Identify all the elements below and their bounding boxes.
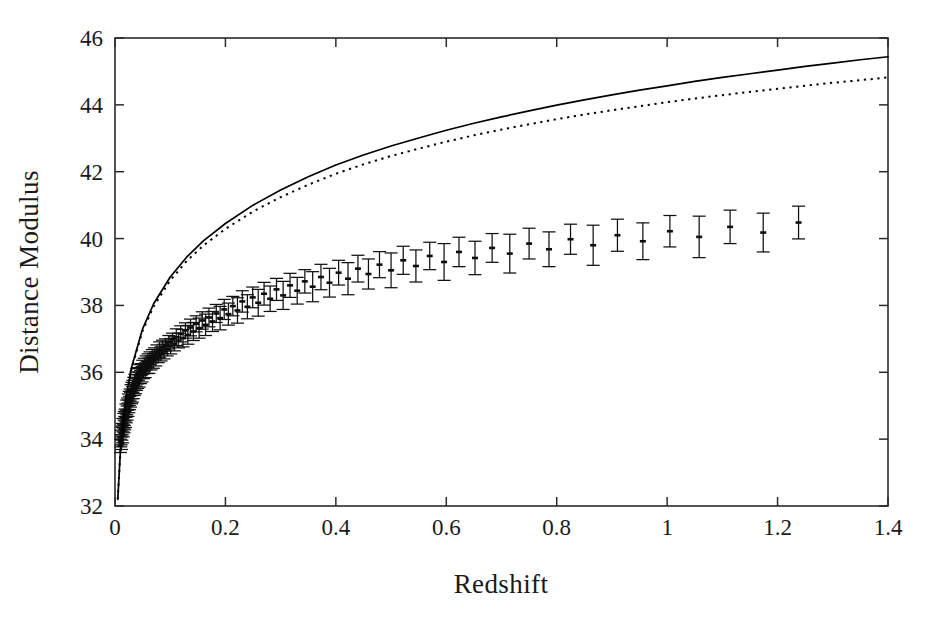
y-tick-label: 44 <box>80 93 104 118</box>
data-point <box>152 353 158 356</box>
data-point <box>182 329 188 332</box>
data-point <box>176 339 182 342</box>
x-axis-ticks-bottom <box>115 497 888 506</box>
x-tick-label: 1.2 <box>763 515 792 540</box>
data-point <box>221 308 227 311</box>
data-point <box>489 247 495 250</box>
x-tick-label: 1.4 <box>874 515 903 540</box>
data-point <box>217 317 223 320</box>
data-point <box>376 263 382 266</box>
x-axis-tick-labels: 00.20.40.60.811.21.4 <box>109 515 903 540</box>
data-point <box>318 276 324 279</box>
x-tick-label: 1 <box>661 515 673 540</box>
data-point <box>327 281 333 284</box>
data-point <box>125 408 131 411</box>
data-point <box>696 236 702 239</box>
data-point <box>127 402 133 405</box>
x-axis-title: Redshift <box>454 569 549 599</box>
data-point <box>302 280 308 283</box>
data-point <box>166 341 172 344</box>
data-point <box>261 292 267 295</box>
data-point <box>230 305 236 308</box>
data-point <box>244 305 250 308</box>
y-tick-label: 36 <box>80 360 103 385</box>
data-point <box>126 405 132 408</box>
data-point <box>169 338 175 341</box>
data-point <box>640 240 646 243</box>
supernova-errorbars <box>114 206 805 452</box>
data-point <box>472 257 478 260</box>
data-point <box>294 289 300 292</box>
y-tick-label: 40 <box>80 227 103 252</box>
data-point <box>145 359 151 362</box>
data-point <box>193 323 199 326</box>
data-point <box>142 369 148 372</box>
data-point <box>134 383 140 386</box>
data-point <box>427 255 433 258</box>
data-point <box>213 312 219 315</box>
data-point <box>355 267 361 270</box>
data-point <box>280 294 286 297</box>
data-point <box>185 334 191 337</box>
data-point <box>796 221 802 224</box>
data-point <box>137 376 143 379</box>
data-point <box>178 333 184 336</box>
data-point <box>149 355 155 358</box>
y-axis-title: Distance Modulus <box>14 170 44 374</box>
x-tick-label: 0.2 <box>211 515 240 540</box>
data-point <box>136 378 142 381</box>
hubble-diagram-figure: 00.20.40.60.811.21.4 3234363840424446 Re… <box>0 0 937 635</box>
data-point <box>203 324 209 327</box>
x-tick-label: 0.8 <box>542 515 571 540</box>
data-point <box>188 326 194 329</box>
data-point <box>336 271 342 274</box>
data-point <box>441 261 447 264</box>
model-curve-solid <box>118 57 888 500</box>
data-point <box>413 265 419 268</box>
y-axis-tick-labels: 3234363840424446 <box>80 26 104 519</box>
data-point <box>400 259 406 262</box>
model-curve-dotted <box>118 77 888 499</box>
data-point <box>155 355 161 358</box>
y-tick-label: 42 <box>80 160 103 185</box>
data-point <box>196 327 202 330</box>
x-tick-label: 0 <box>109 515 121 540</box>
data-point <box>129 393 135 396</box>
data-point <box>727 226 733 229</box>
data-point <box>128 396 134 399</box>
x-axis-ticks-top <box>115 38 888 47</box>
data-point <box>267 297 273 300</box>
data-point <box>210 320 216 323</box>
data-point <box>146 364 152 367</box>
data-point <box>171 343 177 346</box>
data-point <box>164 348 170 351</box>
data-point <box>132 386 138 389</box>
data-point <box>345 277 351 280</box>
data-point <box>546 248 552 251</box>
y-tick-label: 34 <box>80 427 104 452</box>
data-point <box>234 309 240 312</box>
data-point <box>180 337 186 340</box>
data-point <box>239 300 245 303</box>
y-tick-label: 32 <box>80 494 103 519</box>
data-point <box>590 244 596 247</box>
scatter-plot-canvas: 00.20.40.60.811.21.4 3234363840424446 Re… <box>0 0 937 635</box>
data-point <box>206 316 212 319</box>
data-point <box>128 398 134 401</box>
data-point <box>190 330 196 333</box>
y-axis-ticks-right <box>879 38 888 506</box>
data-point <box>614 234 620 237</box>
data-point <box>168 345 174 348</box>
data-point <box>388 269 394 272</box>
plot-frame <box>115 38 888 506</box>
data-point <box>255 301 261 304</box>
data-point <box>760 231 766 234</box>
data-point <box>130 390 136 393</box>
data-point <box>365 273 371 276</box>
y-tick-label: 46 <box>80 26 103 51</box>
data-point <box>287 284 293 287</box>
x-tick-label: 0.4 <box>321 515 350 540</box>
data-point <box>173 336 179 339</box>
data-point <box>274 288 280 291</box>
data-point <box>161 350 167 353</box>
